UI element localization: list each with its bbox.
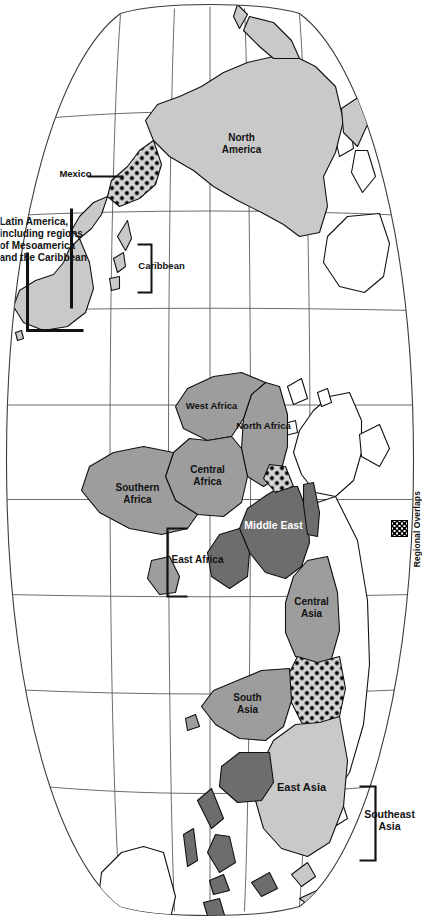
region-label-middle-east-line-0: Middle East — [244, 518, 303, 530]
callout-caribbean-line-0: Caribbean — [138, 259, 185, 270]
callout-latin-america-line-3: and the Caribbean — [0, 251, 86, 262]
region-label-north-america-line-1: America — [221, 143, 261, 154]
callout-east-africa-line-0: East Africa — [171, 553, 223, 564]
region-label-west-africa: West Africa — [185, 399, 237, 410]
callout-southeast-asia-line-0: Southeast — [364, 807, 415, 819]
region-label-central-asia-line-0: Central — [294, 595, 329, 606]
region-label-east-asia-line-0: East Asia — [276, 780, 326, 792]
callout-mexico-line-0: Mexico — [59, 167, 91, 178]
callout-southeast-asia-line-1: Asia — [378, 819, 400, 831]
region-label-southern-africa-line-1: Africa — [123, 493, 152, 504]
region-label-central-africa-line-0: Central — [190, 463, 225, 474]
region-label-central-asia-line-1: Asia — [300, 607, 322, 618]
legend-item-regional-overlaps: Regional Overlaps — [391, 491, 422, 567]
south-america-cone — [1, 300, 13, 318]
callout-latin-america-line-0: Latin America, — [0, 215, 68, 226]
callout-latin-america-line-2: of Mesoamerica — [0, 239, 75, 250]
map-legend: Regional Overlaps — [391, 377, 417, 567]
region-label-central-africa-line-1: Africa — [193, 475, 222, 486]
callout-latin-america-line-1: including regions — [0, 227, 83, 238]
region-label-south-asia-line-1: Asia — [236, 703, 258, 714]
region-label-south-asia-line-0: South — [233, 691, 261, 702]
legend-item-label: Regional Overlaps — [413, 491, 422, 567]
region-label-north-africa: North Africa — [236, 419, 291, 430]
region-label-north-america-line-0: North — [228, 131, 255, 142]
regional-overlaps-swatch-icon — [391, 520, 408, 537]
region-label-west-africa-line-0: West Africa — [185, 399, 237, 410]
region-label-southern-africa-line-0: Southern — [115, 481, 159, 492]
region-label-east-asia: East Asia — [276, 780, 326, 792]
callout-southeast-asia: Southeast Asia — [359, 786, 415, 860]
region-label-north-africa-line-0: North Africa — [236, 419, 291, 430]
region-label-middle-east: Middle East — [244, 518, 303, 530]
